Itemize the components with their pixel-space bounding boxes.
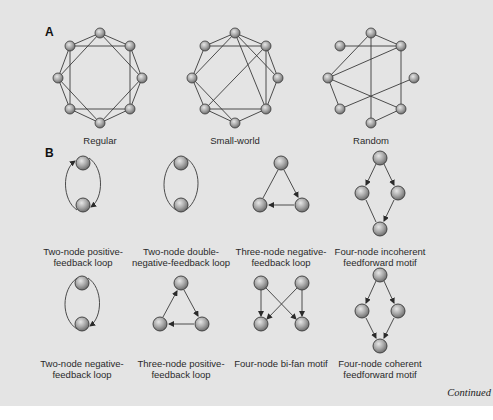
label-line: Two-node double-	[126, 246, 236, 257]
label-line: feedback loop	[231, 257, 331, 268]
motif-two-node-double-negative	[164, 156, 198, 212]
label-line: feedback loop	[32, 369, 132, 380]
label-line: Four-node incoherent	[329, 246, 431, 257]
label-line: negative-feedback loop	[126, 257, 236, 268]
label-line: feedforward motif	[329, 369, 431, 380]
label-regular: Regular	[50, 135, 150, 146]
panel-b-letter: B	[45, 146, 54, 160]
label-two-node-double-negative: Two-node double- negative-feedback loop	[126, 246, 236, 268]
label-two-node-positive: Two-node positive- feedback loop	[33, 246, 133, 268]
label-line: Two-node negative-	[32, 358, 132, 369]
label-four-node-bi-fan: Four-node bi-fan motif	[231, 358, 331, 369]
label-line: Three-node positive-	[131, 358, 231, 369]
continued-label: Continued	[447, 387, 491, 398]
motif-three-node-positive	[153, 276, 209, 331]
label-four-node-incoherent: Four-node incoherent feedforward motif	[329, 246, 431, 268]
label-three-node-positive: Three-node positive- feedback loop	[131, 358, 231, 380]
motif-two-node-positive	[65, 156, 100, 212]
label-three-node-negative: Three-node negative- feedback loop	[231, 246, 331, 268]
network-diagram	[0, 0, 493, 420]
label-random: Random	[321, 135, 421, 146]
label-line: Three-node negative-	[231, 246, 331, 257]
label-small-world: Small-world	[185, 135, 285, 146]
label-line: Two-node positive-	[33, 246, 133, 257]
motif-two-node-negative	[65, 276, 100, 331]
label-line: feedback loop	[131, 369, 231, 380]
label-line: feedback loop	[33, 257, 133, 268]
panel-a-letter: A	[45, 25, 54, 39]
label-four-node-coherent: Four-node coherent feedforward motif	[329, 358, 431, 380]
motif-three-node-negative	[253, 156, 309, 212]
motif-four-node-bi-fan	[254, 276, 309, 331]
label-line: Four-node bi-fan motif	[231, 358, 331, 369]
motif-four-node-coherent-ff	[355, 268, 405, 353]
motif-four-node-incoherent-ff	[355, 151, 405, 236]
label-two-node-negative: Two-node negative- feedback loop	[32, 358, 132, 380]
label-line: feedforward motif	[329, 257, 431, 268]
label-line: Four-node coherent	[329, 358, 431, 369]
regular-nodes	[53, 28, 147, 128]
